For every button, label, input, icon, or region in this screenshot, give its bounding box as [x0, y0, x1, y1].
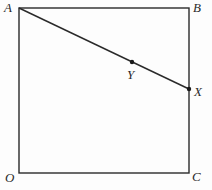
segment-ax: [19, 8, 189, 89]
label-o: O: [5, 170, 15, 185]
label-y: Y: [127, 67, 136, 82]
label-x: X: [193, 84, 203, 99]
point-y-dot: [130, 60, 134, 64]
label-c: C: [192, 169, 201, 184]
diagram-canvas: A B C O X Y: [0, 0, 212, 190]
label-a: A: [3, 0, 12, 15]
label-b: B: [193, 0, 201, 15]
geometry-diagram: A B C O X Y: [0, 0, 212, 190]
square-oabc: [19, 8, 189, 173]
point-x-dot: [187, 87, 191, 91]
